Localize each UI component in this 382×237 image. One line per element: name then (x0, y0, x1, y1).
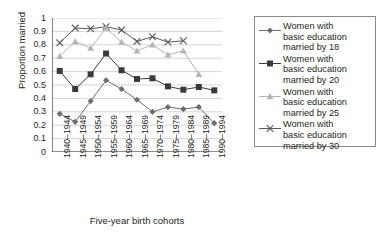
legend-label: Women withbasic educationmarried by 30 (283, 119, 372, 151)
x-tick-label: 1985–1989 (202, 115, 211, 158)
x-tick-label: 1990–1994 (218, 115, 227, 158)
x-tick-label: 1940–1944 (63, 115, 72, 158)
legend-item: Women withbasic educationmarried by 30 (257, 119, 372, 151)
legend-label: Women withbasic educationmarried by 18 (283, 21, 372, 53)
legend-item: Women withbasic educationmarried by 18 (257, 21, 372, 53)
y-tick-label: 0.2 (22, 121, 46, 130)
legend-diamond-icon (257, 22, 283, 33)
legend-label: Women withbasic educationmarried by 20 (283, 54, 372, 86)
y-tick-label: 0.6 (22, 67, 46, 76)
x-tick-label: 1965–1969 (141, 115, 150, 158)
legend-square-icon (257, 55, 283, 66)
y-tick-label: 0.3 (22, 107, 46, 116)
chart-figure: Proportion married 10.90.80.70.60.50.40.… (0, 0, 382, 237)
x-tick-label: 1955–1959 (110, 115, 119, 158)
chart-legend: Women withbasic educationmarried by 18Wo… (254, 16, 376, 147)
y-tick-label: 0.1 (22, 134, 46, 143)
legend-cross-icon (257, 120, 283, 131)
y-tick-label: 0.8 (22, 40, 46, 49)
y-tick-label: 0.4 (22, 94, 46, 103)
y-tick-label: 1 (22, 14, 46, 23)
x-axis-title: Five-year birth cohorts (52, 215, 222, 226)
y-tick-label: 0.9 (22, 27, 46, 36)
y-tick-label: 0.5 (22, 81, 46, 90)
legend-item: Women withbasic educationmarried by 25 (257, 87, 372, 119)
legend-label: Women withbasic educationmarried by 25 (283, 87, 372, 119)
x-tick-label: 1945–1949 (79, 115, 88, 158)
x-tick-label: 1970–1974 (156, 115, 165, 158)
x-tick-label: 1960–1964 (125, 115, 134, 158)
y-tick-label: 0.7 (22, 54, 46, 63)
x-tick-label: 1975–1979 (172, 115, 181, 158)
legend-triangle-icon (257, 88, 283, 99)
y-tick-label: 0 (22, 148, 46, 157)
x-tick-label: 1950–1954 (94, 115, 103, 158)
x-tick-label: 1980–1984 (187, 115, 196, 158)
legend-item: Women withbasic educationmarried by 20 (257, 54, 372, 86)
